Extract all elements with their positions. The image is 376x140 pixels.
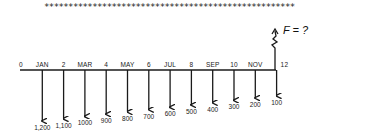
payment-value: 100 [271,99,282,106]
axis-label: MAY [120,61,135,68]
payment-value: 200 [250,101,261,108]
axis-label: 4 [104,61,108,68]
axis-label: 2 [62,61,66,68]
payment-value: 1000 [78,119,93,126]
payment-value: 800 [122,115,133,122]
future-value-label: F = ? [283,24,309,36]
payment-value: 500 [186,108,197,115]
axis-label: JUL [164,61,176,68]
payment-value: 400 [207,106,218,113]
axis-labels: 0JAN2MAR4MAY6JUL8SEP10NOV12 [19,61,288,68]
payment-value: 700 [143,113,154,120]
axis-label: JAN [36,61,49,68]
payment-value: 1,100 [55,122,72,129]
axis-label: 10 [230,61,238,68]
payment-value: 900 [101,117,112,124]
axis-label: NOV [248,61,263,68]
future-value-arrow: F = ? [272,24,309,70]
wavy-up-arrow-icon [272,31,277,70]
axis-label: 0 [19,61,23,68]
payment-value: 1,200 [34,124,51,131]
payment-arrows: 1,2001,100100090080070060050040030020010… [34,70,282,131]
axis-label: 8 [189,61,193,68]
axis-label: 12 [281,61,289,68]
axis-label: MAR [77,61,92,68]
payment-value: 300 [229,103,240,110]
axis-label: SEP [206,61,220,68]
payment-value: 600 [165,110,176,117]
axis-label: 6 [147,61,151,68]
cash-flow-diagram: 0JAN2MAR4MAY6JUL8SEP10NOV12 1,2001,10010… [0,0,376,140]
